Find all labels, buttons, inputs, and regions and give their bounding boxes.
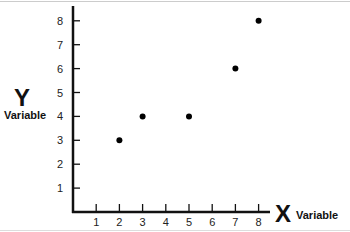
data-point [232,66,238,72]
data-points [116,18,261,144]
x-tick-label: 7 [232,216,238,228]
y-tick-label: 3 [57,134,63,146]
x-axis-letter: X [275,200,291,227]
x-tick-label: 2 [116,216,122,228]
axes: 1234567812345678 [57,6,270,228]
y-tick-label: 4 [57,110,63,122]
x-tick-label: 8 [256,216,262,228]
axis-labels: Y Variable X Variable [4,84,338,227]
x-tick-label: 1 [93,216,99,228]
y-tick-label: 8 [57,15,63,27]
data-point [256,18,262,24]
y-tick-label: 1 [57,182,63,194]
x-axis-word: Variable [296,209,338,221]
x-tick-label: 5 [186,216,192,228]
data-point [140,113,146,119]
y-tick-label: 7 [57,39,63,51]
y-tick-label: 5 [57,87,63,99]
y-tick-label: 6 [57,63,63,75]
scatter-chart: 1234567812345678 Y Variable X Variable [0,0,350,232]
y-axis-word: Variable [4,109,46,121]
data-point [116,137,122,143]
x-tick-label: 6 [209,216,215,228]
x-tick-label: 4 [163,216,169,228]
y-axis-letter: Y [14,84,30,111]
data-point [186,113,192,119]
y-tick-label: 2 [57,158,63,170]
x-tick-label: 3 [140,216,146,228]
